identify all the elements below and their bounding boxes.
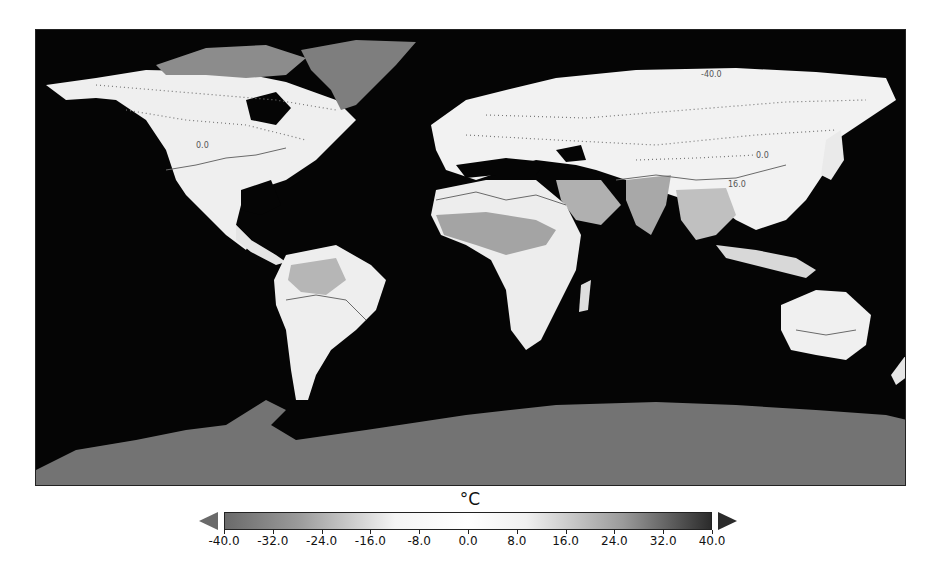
colorbar-extend-high-arrow — [718, 512, 737, 530]
arctic-canada — [156, 45, 306, 78]
contour-label: -40.0 — [701, 70, 722, 79]
world-map-graphic: -40.0 0.0 0.0 16.0 — [36, 30, 906, 486]
colorbar-tick-label: -40.0 — [199, 534, 249, 548]
colorbar-title: °C — [430, 489, 510, 509]
colorbar-tick-label: -16.0 — [345, 534, 395, 548]
antarctica — [36, 400, 906, 486]
temperature-map: -40.0 0.0 0.0 16.0 — [35, 29, 906, 486]
north-america — [46, 70, 356, 250]
contour-label: 0.0 — [196, 141, 209, 150]
se-asia — [676, 188, 736, 240]
australia — [781, 290, 871, 360]
colorbar-extend-low-arrow — [199, 512, 218, 530]
colorbar-tick-label: -32.0 — [248, 534, 298, 548]
colorbar-tick-label: 0.0 — [443, 534, 493, 548]
colorbar-tick-label: -24.0 — [297, 534, 347, 548]
colorbar — [224, 512, 712, 530]
africa — [431, 180, 581, 350]
colorbar-tick-label: 32.0 — [638, 534, 688, 548]
colorbar-tick-label: 16.0 — [541, 534, 591, 548]
contour-label: 16.0 — [728, 180, 746, 189]
colorbar-tick-label: 40.0 — [687, 534, 737, 548]
colorbar-tick-label: 24.0 — [589, 534, 639, 548]
contour-label: 0.0 — [756, 151, 769, 160]
colorbar-tick-label: -8.0 — [394, 534, 444, 548]
colorbar-tick-label: 8.0 — [492, 534, 542, 548]
india — [626, 175, 671, 235]
